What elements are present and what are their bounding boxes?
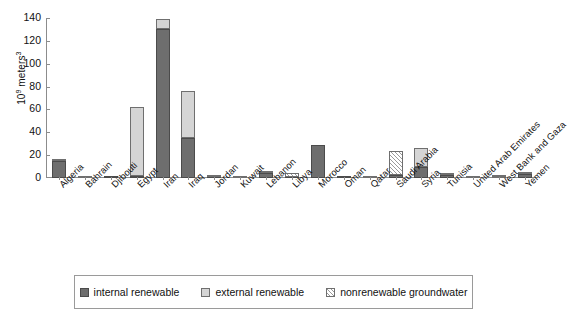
bar-group[interactable] <box>311 18 325 178</box>
bar-segment-external-renewable[interactable] <box>156 19 170 29</box>
legend-item[interactable]: internal renewable <box>80 286 180 298</box>
chart-legend: internal renewableexternal renewablenonr… <box>74 275 473 309</box>
nonrenewable-groundwater-swatch-icon <box>326 288 335 297</box>
internal-renewable-swatch-icon <box>80 288 89 297</box>
bar-group[interactable] <box>233 18 247 178</box>
bar-group[interactable] <box>389 18 403 178</box>
external-renewable-swatch-icon <box>201 288 210 297</box>
bar-group[interactable] <box>337 18 351 178</box>
bar-group[interactable] <box>130 18 144 178</box>
bar-segment-external-renewable[interactable] <box>52 159 66 161</box>
y-tick-label: 60 <box>13 103 41 114</box>
bar-group[interactable] <box>78 18 92 178</box>
bar-group[interactable] <box>285 18 299 178</box>
y-tick-label: 40 <box>13 126 41 137</box>
bar-group[interactable] <box>440 18 454 178</box>
bar-group[interactable] <box>52 18 66 178</box>
bar-segment-external-renewable[interactable] <box>181 91 195 138</box>
bar-group[interactable] <box>259 18 273 178</box>
bar-group[interactable] <box>207 18 221 178</box>
bar-series-container <box>46 18 538 178</box>
bar-group[interactable] <box>181 18 195 178</box>
x-axis-labels: AlgeriaBahrainDjiboutiEgyptIranIraqJorda… <box>46 180 538 250</box>
y-tick-label: 0 <box>13 172 41 183</box>
bar-group[interactable] <box>104 18 118 178</box>
legend-label: external renewable <box>215 286 304 298</box>
y-tick-label: 100 <box>13 58 41 69</box>
y-tick-label: 80 <box>13 81 41 92</box>
bar-segment-internal-renewable[interactable] <box>181 138 195 178</box>
y-tick-label: 120 <box>13 35 41 46</box>
y-tick-label: 140 <box>13 12 41 23</box>
bar-segment-internal-renewable[interactable] <box>156 29 170 178</box>
plot-area: 020406080100120140 <box>46 18 538 178</box>
legend-label: internal renewable <box>94 286 180 298</box>
legend-item[interactable]: external renewable <box>201 286 304 298</box>
legend-label: nonrenewable groundwater <box>340 286 467 298</box>
bar-group[interactable] <box>156 18 170 178</box>
legend-item[interactable]: nonrenewable groundwater <box>326 286 467 298</box>
bar-group[interactable] <box>466 18 480 178</box>
y-tick-label: 20 <box>13 149 41 160</box>
bar-group[interactable] <box>363 18 377 178</box>
